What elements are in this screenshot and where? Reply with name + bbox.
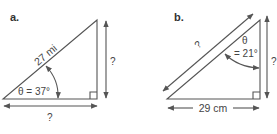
triangle-b	[167, 20, 260, 99]
hypotenuse-label-b: ?	[192, 38, 204, 50]
figure-a-label: a.	[10, 11, 19, 23]
figure-a: a. 27 mi θ = 37° ? ?	[3, 11, 116, 123]
triangle-diagrams: a. 27 mi θ = 37° ? ? b. ? θ = 21° ? 29 c…	[0, 0, 277, 134]
figure-b: b. ? θ = 21° ? 29 cm	[163, 11, 277, 114]
figure-b-label: b.	[174, 11, 184, 23]
angle-label-a: θ = 37°	[18, 86, 50, 97]
adjacent-label-a: ?	[47, 112, 53, 123]
right-angle-mark-b	[253, 92, 260, 99]
adjacent-label-b: 29 cm	[199, 102, 228, 114]
angle-symbol-b: θ	[242, 35, 248, 46]
angle-value-b: = 21°	[234, 48, 258, 59]
opposite-label-b: ?	[271, 56, 277, 67]
opposite-label-a: ?	[110, 56, 116, 67]
right-angle-mark-a	[90, 92, 97, 99]
